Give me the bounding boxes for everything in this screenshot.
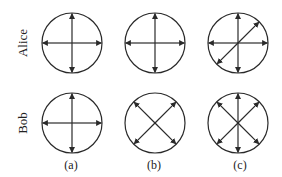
column-label-c: (c) (233, 158, 246, 172)
bob-b-circle (125, 93, 185, 153)
column-label-b: (b) (147, 158, 161, 172)
column-label-a: (a) (64, 158, 77, 172)
bob-c-circle (208, 93, 268, 153)
bob-a-circle (42, 93, 102, 153)
alice-a-circle (42, 13, 102, 73)
row-label-alice: Alice (15, 29, 30, 57)
diagram-canvas: Alice Bob (0, 0, 282, 177)
alice-b-circle (125, 13, 185, 73)
alice-c-circle (208, 13, 268, 73)
polarization-diagram: Alice Bob (0, 0, 282, 177)
row-label-bob: Bob (15, 112, 30, 134)
